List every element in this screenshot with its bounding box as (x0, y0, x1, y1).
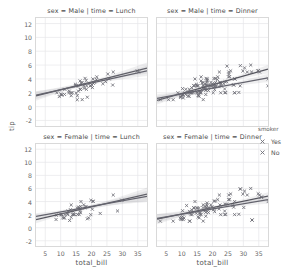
legend-title: smoker (258, 126, 298, 132)
data-point (68, 219, 71, 222)
data-point (202, 220, 205, 223)
y-tick-label: 8 (12, 172, 32, 179)
data-point (63, 93, 66, 96)
data-point (243, 206, 246, 208)
legend-entries: YesNo (258, 136, 298, 158)
data-point (242, 193, 245, 196)
facet-title: sex = Male | time = Lunch (36, 7, 147, 15)
data-point (55, 218, 58, 221)
y-axis-label: tip (8, 106, 16, 146)
legend-marker-icon (258, 139, 266, 144)
y-tick-label: 12 (12, 146, 32, 153)
facet-plot-area (157, 144, 268, 246)
data-point (242, 70, 245, 73)
data-point (246, 194, 249, 197)
data-point (202, 98, 205, 101)
data-point (188, 220, 191, 223)
data-point (205, 93, 208, 96)
data-point (70, 216, 73, 219)
data-point (223, 88, 226, 91)
data-point (76, 95, 79, 98)
data-point (82, 204, 85, 207)
facet-plot-area (36, 18, 147, 126)
data-point (102, 82, 105, 85)
facet-panel: sex = Male | time = Dinner (156, 17, 269, 127)
facet-panel: sex = Female | time = Lunch (35, 143, 148, 247)
legend: smoker YesNo (258, 126, 298, 158)
facet-title: sex = Female | time = Lunch (36, 133, 147, 141)
data-point (243, 190, 246, 193)
y-tick-label: 2 (12, 89, 32, 96)
legend-label: No (271, 149, 279, 156)
data-point (86, 96, 89, 99)
data-point (202, 204, 205, 207)
data-point (70, 94, 73, 97)
data-point (185, 204, 188, 207)
data-point (70, 204, 73, 207)
y-tick-label: 6 (12, 62, 32, 69)
y-tick-label: -2 (12, 237, 32, 244)
x-axis-label: total_bill (32, 259, 152, 267)
facet-panel: sex = Male | time = Lunch (35, 17, 148, 127)
data-point (200, 76, 203, 79)
data-point (172, 220, 175, 223)
y-tick-label: 10 (12, 159, 32, 166)
data-point (243, 67, 246, 70)
data-point (207, 211, 210, 214)
facet-title: sex = Male | time = Dinner (157, 7, 268, 15)
x-tick-label: 35 (250, 250, 268, 257)
y-tick-label: 10 (12, 34, 32, 41)
data-point (116, 210, 119, 213)
legend-label: Yes (271, 138, 281, 145)
data-point (172, 98, 175, 101)
facet-plot-area (36, 144, 147, 246)
y-tick-label: 2 (12, 211, 32, 218)
y-tick-label: -2 (12, 117, 32, 124)
facet-panel: sex = Female | time = Dinner (156, 143, 269, 247)
legend-marker-icon (258, 150, 266, 155)
data-point (111, 84, 114, 87)
x-tick-label: 35 (129, 250, 147, 257)
data-point (223, 210, 226, 213)
data-point (112, 71, 115, 74)
legend-entry[interactable]: Yes (258, 136, 298, 147)
data-point (95, 76, 98, 79)
data-point (218, 71, 221, 74)
data-point (198, 217, 201, 220)
data-point (239, 188, 242, 191)
chart-root: tip 121086420-2 121086420-2 sex = Male |… (0, 0, 298, 273)
y-tick-label: 6 (12, 185, 32, 192)
x-axis-label: total_bill (153, 259, 273, 267)
data-point (251, 219, 254, 222)
facet-plot-area (157, 18, 268, 126)
y-tick-label: 0 (12, 103, 32, 110)
data-point (218, 194, 221, 197)
y-tick-label: 8 (12, 48, 32, 55)
data-point (61, 217, 64, 220)
legend-entry[interactable]: No (258, 147, 298, 158)
y-tick-label: 12 (12, 20, 32, 27)
data-point (81, 98, 84, 101)
y-tick-label: 4 (12, 75, 32, 82)
y-tick-label: 0 (12, 224, 32, 231)
facet-title: sex = Female | time = Dinner (157, 133, 268, 141)
data-point (112, 194, 115, 197)
data-point (205, 215, 208, 218)
y-tick-label: 4 (12, 198, 32, 205)
data-point (267, 85, 268, 88)
